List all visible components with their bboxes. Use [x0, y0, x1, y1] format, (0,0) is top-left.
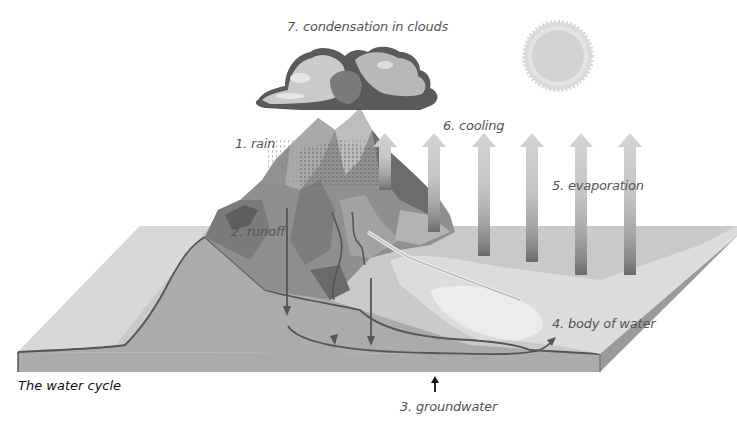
cloud [256, 47, 438, 110]
label-condensation: 7. condensation in clouds [287, 19, 448, 34]
label-body-of-water: 4. body of water [552, 316, 655, 331]
label-cooling: 6. cooling [443, 118, 504, 133]
label-rain: 1. rain [235, 136, 275, 151]
diagram-caption: The water cycle [18, 378, 121, 393]
water-cycle-diagram: 7. condensation in clouds 1. rain 6. coo… [0, 0, 737, 441]
rain [268, 140, 378, 185]
label-runoff: 2. runoff [231, 224, 285, 239]
label-evaporation: 5. evaporation [552, 178, 644, 193]
diagram-canvas [0, 0, 737, 441]
sun [524, 22, 592, 90]
label-groundwater: 3. groundwater [400, 399, 497, 414]
